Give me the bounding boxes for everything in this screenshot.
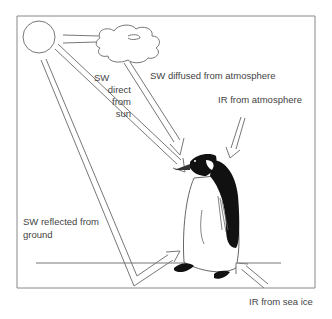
ir-sea-ice-arrow [236, 263, 268, 288]
sun-to-cloud-beam [63, 35, 99, 43]
cloud-icon [96, 25, 159, 63]
label-sw-direct: SW direct from sun [94, 72, 131, 120]
frame-border [17, 16, 315, 288]
sun-icon [23, 21, 55, 53]
label-sw-direct-line2: direct [94, 84, 131, 96]
label-ir-sea-ice: IR from sea ice [249, 296, 313, 308]
label-sw-direct-line3: from [94, 96, 131, 108]
label-sw-direct-line1: SW [94, 72, 131, 84]
label-sw-reflected-line2: ground [23, 228, 99, 241]
ir-atmosphere-arrow [226, 117, 245, 158]
penguin-left-foot [174, 263, 194, 272]
penguin-eye [194, 160, 196, 162]
label-ir-atmosphere: IR from atmosphere [218, 94, 302, 106]
label-sw-diffused: SW diffused from atmosphere [150, 70, 276, 82]
label-sw-reflected-line1: SW reflected from [23, 215, 99, 228]
label-sw-direct-line4: sun [94, 108, 131, 120]
penguin-illustration [174, 154, 239, 279]
radiation-diagram [0, 0, 332, 319]
label-sw-reflected: SW reflected from ground [23, 215, 99, 241]
